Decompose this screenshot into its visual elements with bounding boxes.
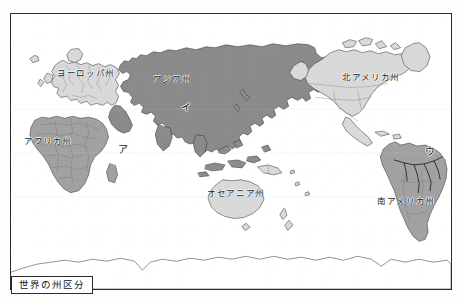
map-frame: [10, 13, 452, 290]
world-regions-figure: ヨーロッパ州 アジア州 アフリカ州 北アメリカ州 南アメリカ州 オセアニア州 ア…: [0, 0, 464, 302]
world-map-drawing: [11, 14, 451, 289]
figure-caption: 世界の州区分: [11, 276, 93, 295]
